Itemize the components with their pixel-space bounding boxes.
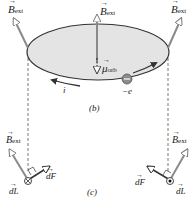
b-ext-arrow-c-left (11, 152, 28, 180)
b-ext-arrow-right (168, 21, 180, 48)
right-angle-right (163, 170, 171, 175)
panel-label-b: (b) (89, 104, 100, 113)
label-dL-right: dL (176, 187, 186, 196)
label-b-ext-c-left: Bext (6, 135, 21, 145)
label-charge: −e (122, 87, 132, 96)
label-dL-left: dL (9, 187, 19, 196)
label-b-ext-center: Bext (100, 6, 115, 17)
label-dF-right: dF (135, 178, 145, 187)
label-current-i: i (63, 86, 66, 95)
dF-arrow-left (28, 168, 47, 180)
label-dF-left: dF (46, 172, 56, 181)
orbital-magnetic-moment-diagram (0, 0, 192, 201)
panel-label-c: (c) (87, 188, 97, 197)
label-b-ext-right: Bext (171, 4, 186, 15)
label-b-ext-left: Bext (8, 4, 23, 15)
dF-arrow-right (150, 168, 170, 180)
current-arrow (52, 80, 80, 86)
b-ext-arrow-left (15, 21, 28, 48)
label-b-ext-c-right: Bext (172, 135, 187, 145)
right-angle-left (28, 167, 36, 175)
b-ext-arrow-c-right (170, 152, 186, 180)
label-mu-orb: μorb (102, 63, 117, 74)
